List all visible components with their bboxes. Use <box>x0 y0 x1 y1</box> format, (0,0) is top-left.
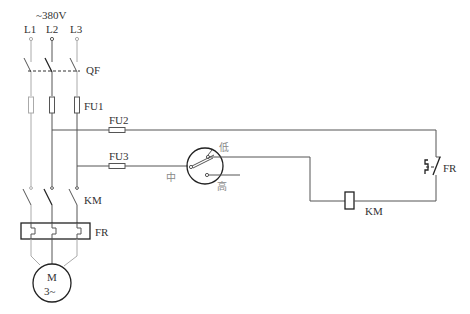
phase-wires-middle <box>31 113 77 186</box>
contactor-main-label: KM <box>84 194 102 206</box>
switch-position-high: 高 <box>217 180 227 192</box>
control-fuse-fu3-label: FU3 <box>109 150 129 162</box>
thermal-relay-contact-fr <box>425 157 441 175</box>
switch-position-low: 低 <box>219 141 229 153</box>
control-fuse-fu2-label: FU2 <box>109 114 129 126</box>
terminal-l2-icon <box>50 37 53 40</box>
motor-label: M <box>47 271 57 283</box>
motor-sublabel: 3~ <box>44 285 56 297</box>
fuse-l3-icon <box>75 97 80 113</box>
contactor-main-km <box>23 187 78 223</box>
selector-switch <box>187 148 310 184</box>
phase-l2-label: L2 <box>46 23 58 35</box>
control-fuse-fu3-icon <box>109 164 125 169</box>
control-fuse-fu2-icon <box>109 128 125 133</box>
thermal-relay-fr <box>21 223 90 239</box>
breaker-label: QF <box>86 64 100 76</box>
control-circuit <box>52 128 441 210</box>
terminal-l3-icon <box>75 37 78 40</box>
motor-wires <box>31 239 77 266</box>
contactor-coil-label: KM <box>365 205 383 217</box>
supply-terminals <box>29 37 78 40</box>
circuit-diagram: ~380V L1 L2 L3 QF FU1 <box>0 0 470 314</box>
fuse-l1-icon <box>29 97 34 113</box>
thermal-relay-label: FR <box>95 226 109 238</box>
switch-position-middle: 中 <box>166 171 176 183</box>
main-fuses-fu1 <box>29 97 80 113</box>
main-fuses-label: FU1 <box>84 100 104 112</box>
breaker-qf <box>24 58 80 96</box>
fuse-l2-icon <box>50 97 55 113</box>
phase-l1-label: L1 <box>24 23 36 35</box>
contactor-coil-km-icon <box>345 192 354 209</box>
phase-l3-label: L3 <box>70 23 83 35</box>
supply-voltage-label: ~380V <box>36 9 66 21</box>
terminal-l1-icon <box>29 37 32 40</box>
thermal-relay-contact-label: FR <box>443 162 457 174</box>
